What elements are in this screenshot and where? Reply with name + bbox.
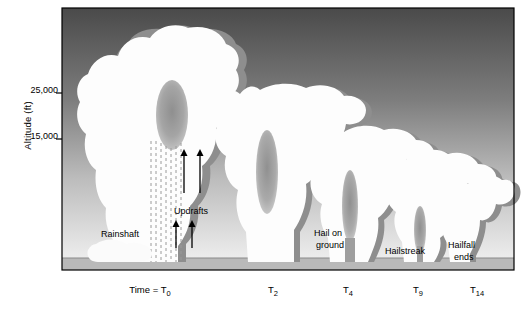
- annotation-hail-on: Hail on: [314, 228, 342, 238]
- annotation-ends: ends: [454, 252, 474, 262]
- time-label-t2: T2: [238, 284, 308, 298]
- time-label-t0-prefix: Time = T: [129, 284, 166, 295]
- time-label-t14-sub: 14: [476, 289, 484, 298]
- hail-core-t0: [156, 80, 188, 150]
- time-label-t0: Time = T0: [115, 284, 185, 298]
- y-tick-label-25000: 25,000: [8, 85, 58, 95]
- diagram-canvas: [0, 0, 522, 319]
- time-label-t2-sub: 2: [274, 289, 278, 298]
- time-label-t9-sub: 9: [419, 289, 423, 298]
- time-label-t4-sub: 4: [349, 289, 353, 298]
- annotation-updrafts: Updrafts: [174, 206, 208, 216]
- hail-core-t4: [342, 170, 358, 242]
- hail-core-t2: [256, 130, 278, 214]
- time-label-t14: T14: [442, 284, 512, 298]
- annotation-rainshaft: Rainshaft: [101, 229, 139, 239]
- annotation-hailstreak: Hailstreak: [385, 246, 425, 256]
- hailstorm-life-cycle-figure: Altitude (ft) 25,000 15,000: [0, 0, 522, 319]
- hail-ground-shaft-t4: [345, 238, 355, 262]
- time-label-t0-sub: 0: [167, 289, 171, 298]
- annotation-ground: ground: [316, 240, 344, 250]
- y-tick-label-15000: 15,000: [8, 131, 58, 141]
- time-label-t4: T4: [313, 284, 383, 298]
- annotation-hailfall: Hailfall: [448, 240, 475, 250]
